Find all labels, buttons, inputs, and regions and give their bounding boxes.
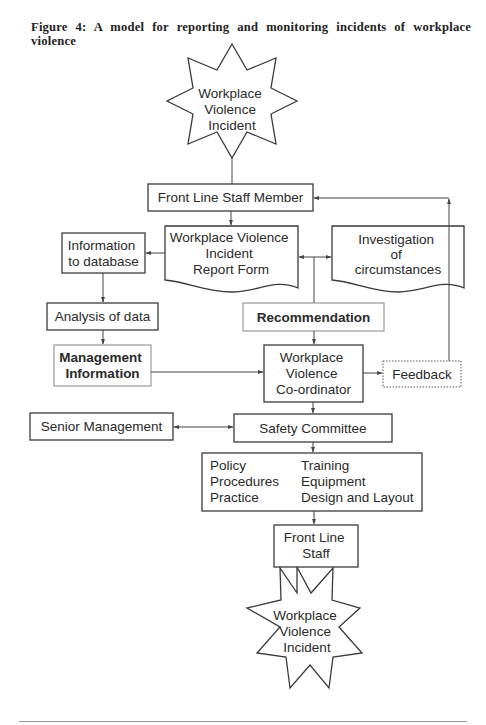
info-db-line-1: Information: [68, 238, 136, 253]
svg-text:Information to database: Information to database: [68, 238, 139, 269]
info-db-line-2: to database: [68, 254, 139, 269]
action-procedures: Procedures: [210, 474, 279, 489]
incident-top-line-1: Workplace: [198, 86, 262, 101]
investigation-line-3: circumstances: [355, 262, 442, 277]
safety-committee-label: Safety Committee: [259, 421, 366, 436]
coordinator-line-3: Co-ordinator: [276, 382, 352, 397]
management-information-box: Management Information: [54, 345, 151, 386]
svg-text:Management Information: Management Information: [59, 350, 145, 381]
recommendation-label: Recommendation: [257, 310, 370, 325]
investigation-line-2: of: [390, 247, 402, 262]
incident-top-line-3: Incident: [208, 118, 256, 133]
coordinator-box: Workplace Violence Co-ordinator: [264, 345, 363, 402]
actions-box: Policy Procedures Practice Training Equi…: [202, 453, 422, 511]
front-line-staff-line-1: Front Line: [284, 530, 345, 545]
management-info-line-1: Management: [59, 350, 142, 365]
senior-management-box: Senior Management: [30, 413, 173, 440]
action-equipment: Equipment: [301, 474, 366, 489]
feedback-box: Feedback: [383, 361, 461, 387]
report-form-line-1: Workplace Violence: [170, 230, 289, 245]
report-form-line-2: Incident: [205, 246, 253, 261]
incident-star-bottom: Workplace Violence Incident: [247, 567, 362, 688]
recommendation-box: Recommendation: [243, 303, 384, 331]
incident-top-line-2: Violence: [204, 102, 256, 117]
action-practice: Practice: [210, 490, 259, 505]
report-form-document: Workplace Violence Incident Report Form: [165, 226, 298, 292]
safety-committee-box: Safety Committee: [234, 414, 392, 442]
senior-management-label: Senior Management: [41, 419, 163, 434]
analysis-label: Analysis of data: [55, 309, 151, 324]
front-line-staff-member-label: Front Line Staff Member: [158, 190, 304, 205]
action-training: Training: [301, 458, 349, 473]
svg-text:Workplace Violence: Workplace Violence Incident: [273, 608, 340, 655]
action-design-layout: Design and Layout: [301, 490, 414, 505]
svg-text:Workplace Violence: Workplace Violence Co-ordinator: [276, 350, 352, 397]
investigation-line-1: Investigation: [358, 232, 434, 247]
investigation-document: Investigation of circumstances: [332, 226, 464, 292]
front-line-staff-line-2: Staff: [302, 546, 330, 561]
incident-bottom-line-2: Violence: [279, 624, 331, 639]
flowchart: Workplace Violence Incident Front Line S…: [0, 0, 486, 725]
incident-bottom-line-3: Incident: [283, 640, 331, 655]
svg-text:Workplace Violence: Workplace Violence Incident: [198, 86, 265, 133]
front-line-staff-box: Front Line Staff: [274, 525, 358, 567]
coordinator-line-1: Workplace: [280, 350, 344, 365]
front-line-staff-member-box: Front Line Staff Member: [148, 184, 313, 211]
incident-star-top: Workplace Violence Incident: [167, 44, 297, 158]
incident-bottom-line-1: Workplace: [273, 608, 337, 623]
feedback-label: Feedback: [392, 367, 452, 382]
information-to-database-box: Information to database: [62, 233, 145, 273]
management-info-line-2: Information: [65, 366, 139, 381]
action-policy: Policy: [210, 458, 246, 473]
star-burst-icon: [167, 44, 297, 158]
analysis-of-data-box: Analysis of data: [47, 303, 158, 330]
coordinator-line-2: Violence: [286, 366, 338, 381]
report-form-line-3: Report Form: [193, 262, 269, 277]
page-rule-divider: [19, 721, 467, 722]
